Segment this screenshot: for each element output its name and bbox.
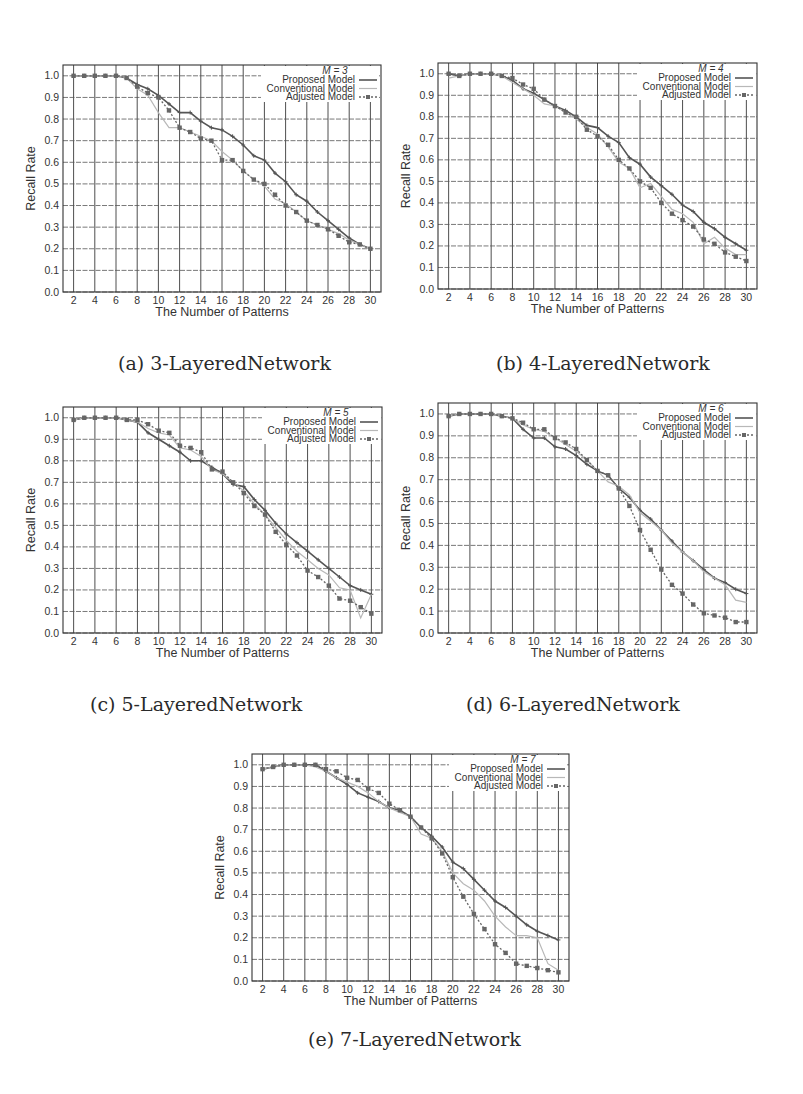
y-tick-label: 0.7 [233, 823, 248, 835]
chart-panel-e: 0.00.10.20.30.40.50.60.70.80.91.02468101… [0, 0, 803, 1050]
x-tick-label: 28 [531, 983, 543, 995]
x-tick-label: 24 [489, 983, 501, 995]
x-tick-label: 4 [281, 983, 287, 995]
chart-e: 0.00.10.20.30.40.50.60.70.80.91.02468101… [0, 0, 803, 1050]
y-tick-label: 0.1 [233, 953, 248, 965]
y-tick-label: 0.8 [233, 802, 248, 814]
y-tick-label: 0.3 [233, 910, 248, 922]
caption-e: (e) 7-LayeredNetwork [308, 1028, 521, 1050]
x-tick-label: 6 [302, 983, 308, 995]
y-tick-label: 0.4 [233, 888, 248, 900]
x-tick-label: 8 [323, 983, 329, 995]
x-axis-label: The Number of Patterns [344, 994, 477, 1008]
legend: M = 7Proposed ModelConventional ModelAdj… [449, 754, 567, 791]
y-tick-label: 0.5 [233, 866, 248, 878]
y-tick-label: 0.0 [233, 975, 248, 987]
legend-label: Adjusted Model [474, 780, 543, 791]
x-tick-label: 26 [510, 983, 522, 995]
y-tick-label: 0.6 [233, 845, 248, 857]
y-tick-label: 0.9 [233, 780, 248, 792]
x-tick-label: 2 [260, 983, 266, 995]
y-tick-label: 0.2 [233, 931, 248, 943]
y-tick-label: 1.0 [233, 758, 248, 770]
y-axis-label: Recall Rate [213, 835, 227, 900]
x-tick-label: 30 [553, 983, 565, 995]
